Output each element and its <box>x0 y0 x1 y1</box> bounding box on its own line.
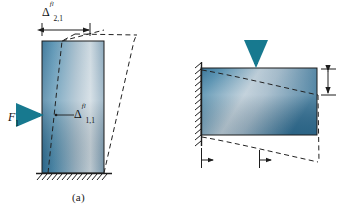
delta-superscript: fl <box>82 102 86 110</box>
label-delta-2-1: Δfl2,1 <box>42 3 63 19</box>
delta-subscript: 2,1 <box>54 14 63 23</box>
top-dimension-line <box>42 23 90 36</box>
label-delta-1-1: Δfl1,1 <box>74 105 95 121</box>
delta-subscript: 1,1 <box>86 116 95 125</box>
figure-root: Δfl2,1 F1 Δfl1,1 (a) <box>0 0 363 213</box>
panel-b-drawing <box>181 0 363 213</box>
label-force-f1: F1 <box>8 108 19 124</box>
caption-a: (a) <box>72 191 85 203</box>
force-subscript: 1 <box>15 119 19 128</box>
delta-symbol: Δ <box>42 5 50 19</box>
panel-b: F Δ(x) x1 x2 (b) <box>181 0 363 213</box>
panel-a: Δfl2,1 F1 Δfl1,1 (a) <box>0 0 181 213</box>
beam-body <box>201 68 317 135</box>
delta-symbol: Δ <box>74 107 82 121</box>
fixed-ground-support <box>36 174 112 181</box>
delta-superscript: fl <box>50 0 54 8</box>
station-marker-x2 <box>260 150 272 168</box>
station-marker-x1 <box>202 148 214 168</box>
deflection-dimension <box>321 69 336 95</box>
